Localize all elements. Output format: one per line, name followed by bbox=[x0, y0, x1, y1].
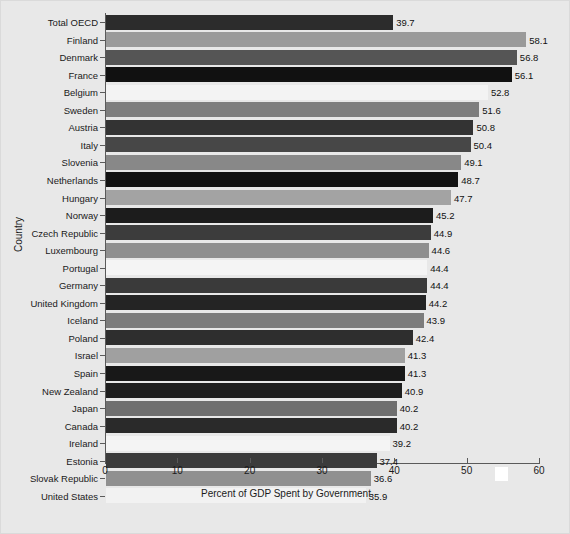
y-tick bbox=[100, 57, 105, 58]
y-tick bbox=[100, 478, 105, 479]
y-tick bbox=[100, 92, 105, 93]
x-tick bbox=[322, 458, 323, 463]
y-tick bbox=[100, 198, 105, 199]
category-label: Spain bbox=[74, 368, 98, 379]
bar-value-label: 39.7 bbox=[396, 17, 415, 28]
bar-value-label: 40.9 bbox=[405, 386, 424, 397]
category-label: Italy bbox=[81, 140, 98, 151]
bar-value-label: 39.2 bbox=[393, 438, 412, 449]
bar bbox=[106, 120, 473, 135]
bar-value-label: 42.4 bbox=[416, 333, 435, 344]
bar bbox=[106, 102, 479, 117]
category-label: Austria bbox=[68, 122, 98, 133]
y-tick bbox=[100, 373, 105, 374]
bar-value-label: 40.2 bbox=[400, 421, 419, 432]
y-tick bbox=[100, 145, 105, 146]
bar-value-label: 44.2 bbox=[429, 298, 448, 309]
category-label: Finland bbox=[67, 35, 98, 46]
category-label: Germany bbox=[59, 280, 98, 291]
category-label: Poland bbox=[68, 333, 98, 344]
y-tick bbox=[100, 426, 105, 427]
category-label: Israel bbox=[75, 350, 98, 361]
category-label: Japan bbox=[72, 403, 98, 414]
y-tick bbox=[100, 127, 105, 128]
white-block-artifact bbox=[495, 467, 508, 481]
x-tick bbox=[394, 458, 395, 463]
bar-value-label: 44.6 bbox=[432, 245, 451, 256]
y-tick bbox=[100, 320, 105, 321]
y-tick bbox=[100, 268, 105, 269]
bar bbox=[106, 225, 431, 240]
x-tick bbox=[539, 458, 540, 463]
bar-value-label: 56.8 bbox=[520, 52, 539, 63]
category-label: Luxembourg bbox=[45, 245, 98, 256]
x-tick-label: 20 bbox=[244, 465, 255, 476]
bar-value-label: 44.4 bbox=[430, 263, 449, 274]
bar bbox=[106, 330, 413, 345]
bar-value-label: 50.4 bbox=[474, 140, 493, 151]
bar bbox=[106, 50, 517, 65]
bar-value-label: 44.9 bbox=[434, 228, 453, 239]
bar bbox=[106, 453, 377, 468]
x-tick bbox=[105, 458, 106, 463]
category-label: Total OECD bbox=[48, 17, 98, 28]
x-tick-label: 50 bbox=[461, 465, 472, 476]
bar-value-label: 49.1 bbox=[464, 157, 483, 168]
category-label: Belgium bbox=[64, 87, 98, 98]
y-tick bbox=[100, 285, 105, 286]
x-tick-label: 40 bbox=[389, 465, 400, 476]
y-tick bbox=[100, 250, 105, 251]
x-axis-title: Percent of GDP Spent by Government bbox=[1, 488, 570, 499]
bar bbox=[106, 348, 405, 363]
bar bbox=[106, 278, 427, 293]
y-tick bbox=[100, 303, 105, 304]
bar bbox=[106, 313, 424, 328]
x-tick bbox=[467, 458, 468, 463]
x-tick-label: 10 bbox=[172, 465, 183, 476]
bar bbox=[106, 418, 397, 433]
y-tick bbox=[100, 233, 105, 234]
bar bbox=[106, 85, 488, 100]
y-tick bbox=[100, 215, 105, 216]
bar-chart-plot-area: Total OECDFinlandDenmarkFranceBelgiumSwe… bbox=[1, 1, 570, 534]
bar bbox=[106, 190, 451, 205]
bar-value-label: 44.4 bbox=[430, 280, 449, 291]
category-label: Sweden bbox=[64, 105, 98, 116]
bar bbox=[106, 401, 397, 416]
bar-value-label: 51.6 bbox=[482, 105, 501, 116]
x-tick-label: 30 bbox=[316, 465, 327, 476]
category-label: Denmark bbox=[59, 52, 98, 63]
y-tick bbox=[100, 338, 105, 339]
y-tick bbox=[100, 180, 105, 181]
bar-value-label: 52.8 bbox=[491, 87, 510, 98]
bar bbox=[106, 471, 371, 486]
bar bbox=[106, 67, 512, 82]
y-tick bbox=[100, 408, 105, 409]
bar bbox=[106, 243, 429, 258]
bar bbox=[106, 32, 526, 47]
bar bbox=[106, 155, 461, 170]
y-tick bbox=[100, 391, 105, 392]
category-label: Estonia bbox=[66, 456, 98, 467]
bar-value-label: 40.2 bbox=[400, 403, 419, 414]
bar bbox=[106, 383, 402, 398]
bar bbox=[106, 172, 458, 187]
category-label: Canada bbox=[65, 421, 98, 432]
bar-value-label: 58.1 bbox=[529, 35, 548, 46]
chart-page: Total OECDFinlandDenmarkFranceBelgiumSwe… bbox=[0, 0, 570, 534]
x-tick bbox=[250, 458, 251, 463]
y-tick bbox=[100, 355, 105, 356]
y-tick bbox=[100, 22, 105, 23]
y-axis-title: Country bbox=[13, 205, 24, 265]
x-tick-label: 60 bbox=[533, 465, 544, 476]
category-label: Ireland bbox=[69, 438, 98, 449]
bar-value-label: 48.7 bbox=[461, 175, 480, 186]
bar-value-label: 56.1 bbox=[515, 70, 534, 81]
category-label: United Kingdom bbox=[30, 298, 98, 309]
x-tick-label: 0 bbox=[102, 465, 108, 476]
bar bbox=[106, 366, 405, 381]
y-tick bbox=[100, 110, 105, 111]
bar bbox=[106, 137, 471, 152]
bar bbox=[106, 260, 427, 275]
category-label: Iceland bbox=[67, 315, 98, 326]
